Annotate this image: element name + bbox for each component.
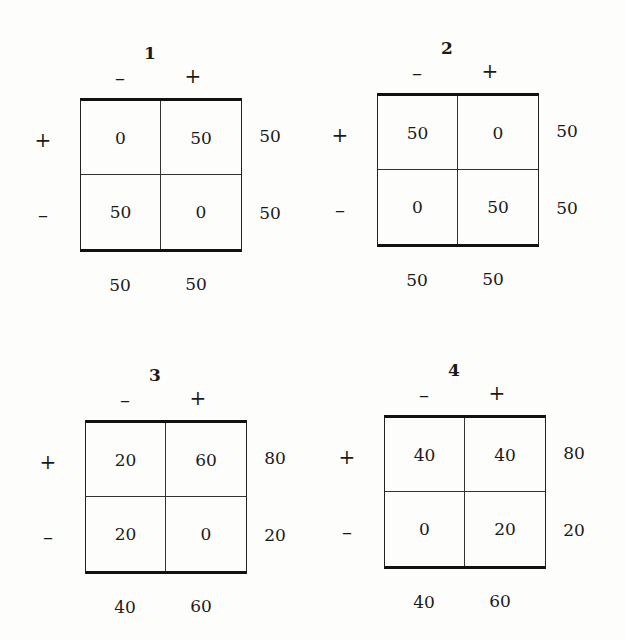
table-panel-3: 3–++–206020080204060 [5,322,265,582]
row-total: 20 [264,525,286,545]
cell-r1-c0: 50 [81,175,161,249]
col-total: 60 [190,596,212,616]
panel-title: 4 [448,360,460,380]
row-total: 80 [264,448,286,468]
col-total: 60 [489,591,511,611]
col-label-minus: – [419,383,429,407]
cell-r0-c1: 40 [465,418,545,492]
col-total: 50 [482,269,504,289]
row-total: 50 [259,203,281,223]
cell-r0-c1: 0 [458,96,538,170]
row-label-plus: + [332,123,349,147]
table-panel-1: 1–++–05050050505050 [0,0,260,260]
cell-r1-c1: 20 [465,492,545,566]
cell-r0-c0: 40 [385,418,465,492]
col-label-minus: – [412,61,422,85]
row-total: 50 [259,126,281,146]
panel-title: 2 [441,38,453,58]
row-total: 50 [556,121,578,141]
cell-r1-c1: 50 [458,170,538,244]
contingency-grid: 4040020 [384,415,546,569]
table-panel-4: 4–++–404002080204060 [304,317,564,577]
cell-r1-c1: 0 [161,175,241,249]
contingency-grid: 2060200 [85,420,247,574]
col-total: 50 [109,275,131,295]
cell-r1-c0: 0 [385,492,465,566]
contingency-grid: 500050 [377,93,539,247]
col-label-minus: – [115,66,125,90]
cell-r0-c0: 0 [81,101,161,175]
contingency-grid: 050500 [80,98,242,252]
row-total: 50 [556,198,578,218]
col-total: 50 [185,274,207,294]
cell-r1-c0: 20 [86,497,166,571]
cell-r1-c1: 0 [166,497,246,571]
panel-title: 1 [144,43,156,63]
row-label-plus: + [40,450,57,474]
cell-r1-c0: 0 [378,170,458,244]
col-label-plus: + [482,59,499,83]
row-label-minus: – [43,525,53,549]
col-total: 50 [406,270,428,290]
table-panel-2: 2–++–50005050505050 [297,0,557,255]
col-total: 40 [114,597,136,617]
col-label-plus: + [185,64,202,88]
row-label-plus: + [339,445,356,469]
col-label-minus: – [120,388,130,412]
cell-r0-c1: 60 [166,423,246,497]
row-total: 80 [563,443,585,463]
cell-r0-c1: 50 [161,101,241,175]
row-total: 20 [563,520,585,540]
row-label-minus: – [342,520,352,544]
col-label-plus: + [190,386,207,410]
col-label-plus: + [489,381,506,405]
row-label-minus: – [335,198,345,222]
row-label-minus: – [38,203,48,227]
cell-r0-c0: 20 [86,423,166,497]
cell-r0-c0: 50 [378,96,458,170]
col-total: 40 [413,592,435,612]
row-label-plus: + [35,128,52,152]
panel-title: 3 [149,365,161,385]
